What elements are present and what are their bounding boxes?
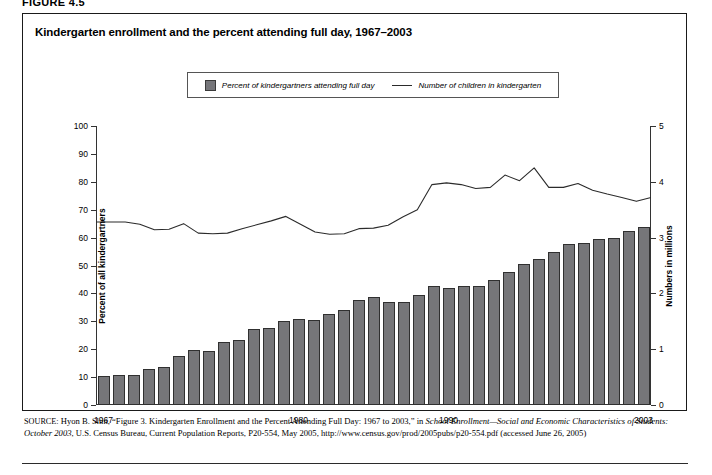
y-tick-left-70: [91, 210, 96, 211]
line-series: [96, 126, 651, 405]
y-ticklabel-right-0: 0: [659, 401, 664, 410]
legend-label-bars: Percent of kindergartners attending full…: [222, 81, 375, 90]
y-ticklabel-left-50: 50: [79, 261, 88, 270]
y-tick-right-4: [651, 182, 656, 183]
y-tick-right-5: [651, 126, 656, 127]
y-tick-right-1: [651, 349, 656, 350]
y-tick-left-10: [91, 377, 96, 378]
y-ticklabel-left-40: 40: [79, 289, 88, 298]
y-ticklabel-left-90: 90: [79, 150, 88, 159]
source-prefix: SOURCE:: [24, 417, 59, 426]
chart-title: Kindergarten enrollment and the percent …: [35, 26, 412, 38]
legend-item-bars: Percent of kindergartners attending full…: [205, 80, 375, 91]
legend-swatch-icon: [205, 80, 216, 91]
y-ticklabel-left-0: 0: [83, 401, 88, 410]
y-axis-right-title: Numbers in millions: [663, 225, 673, 306]
y-tick-left-30: [91, 321, 96, 322]
chart-legend: Percent of kindergartners attending full…: [187, 72, 559, 98]
line-path: [96, 168, 651, 234]
source-text-1: Hyon B. Shin, “Figure 3. Kindergarten En…: [59, 416, 426, 426]
legend-item-line: Number of children in kindergarten: [392, 81, 541, 90]
y-ticklabel-left-60: 60: [79, 233, 88, 242]
y-tick-left-90: [91, 154, 96, 155]
y-ticklabel-left-70: 70: [79, 205, 88, 214]
y-ticklabel-left-100: 100: [74, 122, 88, 131]
y-tick-right-0: [651, 405, 656, 406]
y-tick-left-100: [91, 126, 96, 127]
source-text-2: , U.S. Census Bureau, Current Population…: [72, 428, 587, 438]
y-tick-right-3: [651, 238, 656, 239]
y-ticklabel-left-80: 80: [79, 178, 88, 187]
y-tick-left-20: [91, 349, 96, 350]
y-tick-right-2: [651, 293, 656, 294]
y-tick-left-0: [91, 405, 96, 406]
y-tick-left-40: [91, 293, 96, 294]
y-tick-left-60: [91, 238, 96, 239]
y-ticklabel-left-30: 30: [79, 317, 88, 326]
legend-label-line: Number of children in kindergarten: [418, 81, 541, 90]
y-ticklabel-right-1: 1: [659, 345, 664, 354]
y-ticklabel-right-4: 4: [659, 178, 664, 187]
figure-page: FIGURE 4.5 Kindergarten enrollment and t…: [0, 0, 712, 475]
bottom-rule: [22, 463, 688, 464]
y-tick-left-80: [91, 182, 96, 183]
figure-card: Kindergarten enrollment and the percent …: [22, 13, 687, 411]
plot-area: 0102030405060708090100 012345 1967198019…: [96, 126, 651, 405]
y-axis-left-title: Percent of all kindergartners: [97, 208, 107, 323]
legend-line-icon: [392, 85, 412, 86]
y-ticklabel-left-10: 10: [79, 373, 88, 382]
y-tick-left-50: [91, 266, 96, 267]
y-ticklabel-left-20: 20: [79, 345, 88, 354]
figure-label: FIGURE 4.5: [22, 0, 85, 8]
source-note: SOURCE: Hyon B. Shin, “Figure 3. Kinderg…: [24, 416, 688, 440]
y-ticklabel-right-5: 5: [659, 122, 664, 131]
